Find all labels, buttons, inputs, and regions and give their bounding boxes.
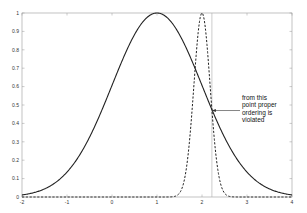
y-tick-label: 0.6 [12, 83, 19, 89]
y-tick-label: 0.7 [12, 65, 19, 71]
y-tick-label: 0.2 [12, 157, 19, 163]
x-tick-label: 3 [246, 199, 249, 205]
x-tick-label: 2 [201, 199, 204, 205]
x-tick-label: -2 [20, 199, 25, 205]
x-tick-label: -1 [65, 199, 70, 205]
x-tick-label: 4 [291, 199, 294, 205]
y-tick-label: 0.1 [12, 175, 19, 181]
x-tick-label: 0 [111, 199, 114, 205]
y-tick-label: 0 [16, 194, 19, 200]
y-tick-label: 0.5 [12, 102, 19, 108]
y-tick-label: 0.3 [12, 139, 19, 145]
y-tick-label: 0.8 [12, 47, 19, 53]
y-tick-label: 0.4 [12, 120, 19, 126]
x-tick-label: 1 [156, 199, 159, 205]
y-tick-label: 1 [16, 10, 19, 16]
chart: 00.10.20.30.40.50.60.70.80.91 -2-101234 … [0, 0, 307, 213]
y-tick-label: 0.9 [12, 28, 19, 34]
